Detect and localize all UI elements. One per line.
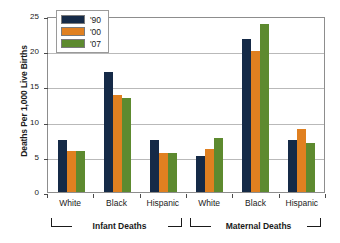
bar[interactable] [205,149,214,192]
bar-group [140,18,186,192]
legend-label: '07 [90,39,101,49]
bar[interactable] [196,156,205,192]
legend-item[interactable]: '00 [61,26,101,37]
bar[interactable] [260,24,269,192]
bar[interactable] [306,143,315,192]
bar-group [186,18,232,192]
bar[interactable] [150,140,159,192]
legend-swatch-1990 [61,15,85,24]
y-axis-tick-label: 10 [0,118,39,127]
y-axis-tick-label: 5 [0,153,39,162]
bar[interactable] [242,39,251,192]
legend-item[interactable]: '07 [61,38,101,49]
y-axis-tick-label: 0 [0,188,39,197]
bar[interactable] [159,153,168,192]
bar[interactable] [214,138,223,192]
x-axis-tick-label: Hispanic [267,198,337,208]
bar[interactable] [251,51,260,192]
y-axis-tick-label: 20 [0,47,39,56]
bar-group [278,18,324,192]
legend-swatch-2007 [61,39,85,48]
legend-swatch-2000 [61,27,85,36]
legend-label: '90 [90,15,101,25]
bar[interactable] [168,153,177,192]
bar[interactable] [58,140,67,192]
bar-chart: Deaths Per 1,000 Live Births 2520151050 … [0,0,340,243]
y-axis-tick-label: 25 [0,12,39,21]
group-bracket-label: Maternal Deaths [211,221,307,231]
bar[interactable] [297,129,306,192]
bar[interactable] [122,98,131,192]
bar[interactable] [67,151,76,192]
bar[interactable] [113,95,122,192]
bar[interactable] [76,151,85,192]
legend: '90 '00 '07 [56,10,109,53]
group-bracket-label: Infant Deaths [72,221,168,231]
y-axis-tick-label: 15 [0,82,39,91]
legend-label: '00 [90,27,101,37]
bar[interactable] [288,140,297,192]
legend-item[interactable]: '90 [61,14,101,25]
bar[interactable] [104,72,113,192]
bar-group [232,18,278,192]
